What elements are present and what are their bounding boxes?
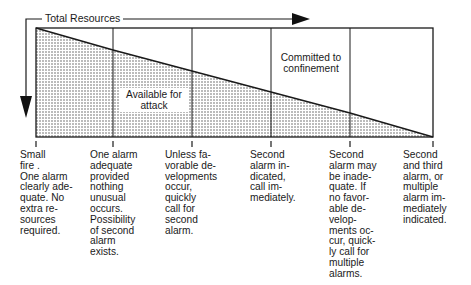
stage-label-5: Second alarm may be inade- quate. If no … xyxy=(329,150,377,280)
resource-diagram xyxy=(0,0,471,285)
available-region-label: Available for attack xyxy=(119,88,189,112)
stage-label-3: Unless fa- vorable de- velopments occur,… xyxy=(165,150,217,236)
committed-region-label: Committed to confinement xyxy=(272,52,350,74)
arrowhead-right-icon xyxy=(292,13,310,25)
stage-label-6: Second and third alarm, or multiple alar… xyxy=(403,150,447,226)
total-resources-label: Total Resources xyxy=(42,12,123,24)
stage-label-4: Second alarm in- dicated, call im- media… xyxy=(250,150,296,204)
arrowhead-down-icon xyxy=(20,96,32,118)
stage-label-2: One alarm adequate provided nothing unus… xyxy=(90,150,138,258)
stage-ticks xyxy=(36,141,433,147)
stage-label-1: Small fire . One alarm clearly ade- quat… xyxy=(20,150,73,236)
